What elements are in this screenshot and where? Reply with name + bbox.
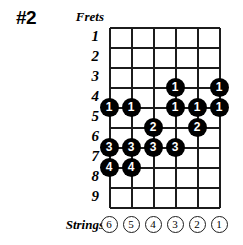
finger-dot-f4-s6: 1 — [100, 98, 119, 117]
finger-dot-f5-s4: 2 — [144, 118, 163, 137]
fret-number-8: 8 — [77, 169, 99, 184]
finger-dot-f4-s3: 1 — [166, 98, 185, 117]
finger-dot-f6-s5: 3 — [122, 138, 141, 157]
finger-dot-f5-s2: 2 — [188, 118, 207, 137]
finger-dot-f6-s3: 3 — [166, 138, 185, 157]
string-number-1: 1 — [211, 216, 228, 233]
finger-dot-f7-s6: 4 — [100, 158, 119, 177]
page-title: #2 — [16, 8, 36, 27]
string-number-2: 2 — [189, 216, 206, 233]
string-number-3: 3 — [167, 216, 184, 233]
fret-number-5: 5 — [77, 109, 99, 124]
finger-dot-f4-s2: 1 — [188, 98, 207, 117]
fret-number-3: 3 — [77, 69, 99, 84]
strings-axis-label: Strings — [48, 218, 104, 231]
fret-number-4: 4 — [77, 89, 99, 104]
finger-dot-f3-s1: 1 — [210, 78, 229, 97]
finger-dot-f4-s1: 1 — [210, 98, 229, 117]
string-number-5: 5 — [123, 216, 140, 233]
frets-axis-label: Frets — [60, 10, 104, 23]
fretboard-grid — [109, 27, 221, 209]
fretboard-diagram: #2 Frets Strings 123456789 1111111223333… — [0, 0, 243, 245]
finger-dot-f6-s6: 3 — [100, 138, 119, 157]
fret-number-1: 1 — [77, 29, 99, 44]
finger-dot-f3-s3: 1 — [166, 78, 185, 97]
fret-number-6: 6 — [77, 129, 99, 144]
string-number-6: 6 — [101, 216, 118, 233]
string-number-4: 4 — [145, 216, 162, 233]
finger-dot-f4-s5: 1 — [122, 98, 141, 117]
finger-dot-f7-s5: 4 — [122, 158, 141, 177]
fret-number-7: 7 — [77, 149, 99, 164]
fret-number-9: 9 — [77, 189, 99, 204]
finger-dot-f6-s4: 3 — [144, 138, 163, 157]
fret-number-2: 2 — [77, 49, 99, 64]
